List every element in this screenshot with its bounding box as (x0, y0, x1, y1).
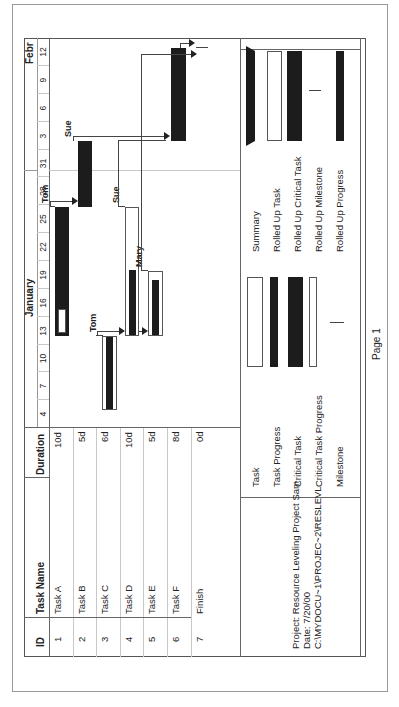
link-a-b (50, 201, 74, 202)
row-task-name: Task D (123, 585, 135, 614)
row-task-name: Task B (76, 585, 88, 614)
gantt-page: ID Task Name Duration January Febr 4 7 1… (0, 0, 399, 707)
legend-rolled-up-milestone-swatch (309, 90, 321, 91)
id-col-divider (24, 617, 191, 618)
arrow-icon (191, 50, 197, 58)
row-duration: 5d (76, 431, 88, 442)
task-name-header: Task Name (35, 562, 47, 614)
legend-critical-progress-swatch (309, 277, 317, 367)
legend-bottom-divider (360, 38, 361, 657)
legend-milestone-swatch (330, 322, 344, 323)
summary-cap-icon (246, 141, 255, 146)
row-task-name: Task C (99, 585, 111, 614)
task-a-progress-gap (58, 309, 66, 333)
link-f-finish (180, 44, 181, 48)
footer-path: C:\MYDOCU~1\PROJEC~2\RESLEVL (312, 486, 324, 649)
row-task-name: Task F (170, 586, 182, 614)
link-e-finish (141, 54, 195, 55)
day-tick: 25 (37, 205, 49, 233)
legend-top-divider (240, 38, 241, 657)
row-task-name: Task E (146, 585, 158, 614)
legend-milestone-label: Milestone (334, 446, 346, 487)
link-b-f (73, 136, 166, 137)
day-tick: 16 (37, 289, 49, 317)
legend-rolled-up-critical-swatch (287, 51, 302, 141)
task-c-progress (106, 337, 113, 409)
name-col-divider (24, 477, 49, 478)
row-divider (167, 428, 168, 657)
row-id: 1 (52, 637, 64, 642)
arrow-icon (72, 197, 78, 205)
row-divider (73, 428, 74, 657)
day-tick: 10 (37, 345, 49, 372)
task-b-resource: Sue (63, 120, 73, 137)
legend-rolled-up-milestone-label: Rolled Up Milestone (313, 167, 325, 252)
arrow-icon (189, 39, 195, 47)
legend-task-swatch (247, 277, 263, 367)
day-tick: 7 (37, 372, 49, 400)
month-february: Febr (24, 42, 36, 64)
row-id: 7 (194, 637, 206, 642)
legend-task-progress-swatch (270, 277, 278, 367)
task-c-resource: Tom (88, 314, 98, 332)
legend-task-progress-label: Task Progress (271, 427, 283, 487)
legend-summary-label: Summary (250, 211, 262, 252)
day-tick: 9 (37, 66, 49, 94)
day-tick: 13 (37, 317, 49, 345)
legend-rolled-up-task-label: Rolled Up Task (271, 188, 283, 252)
link-c-d (97, 331, 121, 332)
day-tick: 3 (37, 122, 49, 150)
day-tick: 6 (37, 94, 49, 122)
page-number: Page 1 (366, 328, 388, 360)
link-e-finish (141, 55, 142, 271)
id-header: ID (35, 637, 47, 647)
day-tick: 31 (37, 150, 49, 177)
task-e-progress (152, 280, 159, 335)
row-id: 3 (99, 637, 111, 642)
link-c-d (97, 332, 98, 336)
month-col-divider (24, 170, 37, 171)
task-e-resource: Mary (134, 246, 144, 267)
arrow-icon (164, 132, 170, 140)
row-id: 6 (170, 637, 182, 642)
summary-cap-icon (246, 46, 255, 51)
row-divider (120, 428, 121, 657)
finish-milestone[interactable] (196, 47, 208, 48)
row-divider (191, 428, 192, 657)
link-d-f (118, 141, 119, 207)
legend-critical-progress-label: Critical Task Progress (313, 395, 325, 487)
row-duration: 0d (194, 431, 206, 442)
row-task-name: Task A (52, 586, 64, 614)
month-january: January (24, 279, 36, 317)
day-tick: 4 (37, 400, 49, 428)
legend-critical-task-swatch (288, 277, 303, 367)
task-f-bar[interactable] (171, 48, 186, 141)
row-duration: 5d (146, 431, 158, 442)
row-id: 4 (123, 637, 135, 642)
row-duration: 10d (52, 432, 64, 448)
link-d-f (118, 140, 166, 141)
row-duration: 6d (99, 431, 111, 442)
legend-rolled-up-progress-swatch (336, 51, 344, 141)
legend-rolled-up-progress-label: Rolled Up Progress (334, 170, 346, 252)
row-duration: 10d (123, 432, 135, 448)
duration-header: Duration (35, 434, 47, 475)
arrow-icon (119, 327, 125, 335)
task-d-resource: Sue (111, 186, 121, 203)
duration-col-divider (24, 427, 240, 428)
row-id: 5 (146, 637, 158, 642)
row-divider (143, 428, 144, 657)
task-a-resource: Tom (40, 185, 50, 203)
row-task-name: Finish (194, 589, 206, 614)
row-divider (96, 428, 97, 657)
link-d-f (118, 206, 125, 207)
legend-rolled-up-task-swatch (267, 51, 282, 141)
legend-critical-task-label: Critical Task (292, 436, 304, 487)
day-tick: 19 (37, 261, 49, 289)
legend-summary-swatch (246, 51, 255, 141)
day-tick: 12 (37, 38, 49, 66)
row-id: 2 (76, 637, 88, 642)
link-b-f (73, 137, 74, 141)
task-b-bar[interactable] (78, 141, 92, 207)
row-duration: 8d (170, 431, 182, 442)
